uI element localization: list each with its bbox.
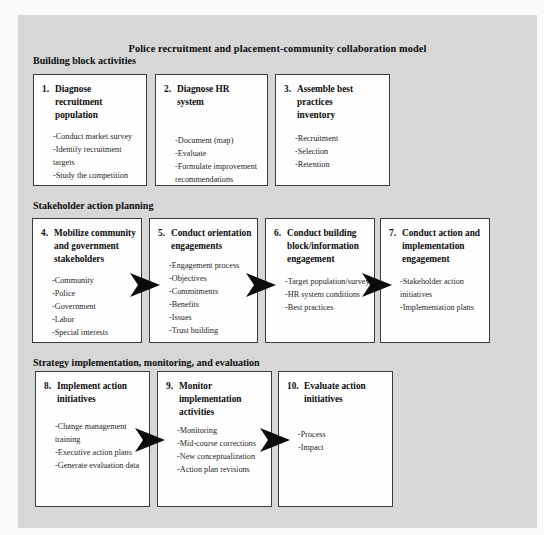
list-item: -Trust building [169,324,253,337]
list-item: -Commitments [169,285,253,298]
list-item: -Stakeholder action initiatives [400,275,485,301]
box-number: 5. [158,227,165,240]
box-number: 8. [44,380,51,393]
process-box-8: 8.Implement action initiatives -Change m… [35,371,150,507]
list-item: -Generate evaluation data [55,459,145,472]
diagram-title: Police recruitment and placement-communi… [18,43,537,54]
box-number: 1. [42,83,49,96]
box-number: 6. [274,227,281,240]
box-title: 3.Assemble best practices inventory [284,83,385,122]
list-item: -Special interests [52,326,137,339]
box-title: 1.Diagnose recruitment population [42,83,142,122]
flow-arrow-icon [246,273,276,297]
list-item: -Impact [298,441,388,454]
process-box-5: 5.Conduct orientation engagements -Engag… [149,218,258,343]
box-items: -Recruitment-Selection-Retention [295,132,385,171]
list-item: -Police [52,287,137,300]
process-box-10: 10.Evaluate action initiatives -Process-… [278,371,393,507]
list-item: -Monitoring [177,424,267,437]
box-items: -Document (map)-Evaluate-Formulate impro… [175,134,263,186]
box-title-text: Diagnose recruitment population [55,84,102,120]
flow-arrow-icon [130,273,160,297]
list-item: -New conceptualization [177,450,267,463]
box-title-text: Implement action initiatives [57,381,127,404]
box-items: -Conduct market survey-Identify recruitm… [53,130,142,182]
list-item: -Conduct market survey [53,130,142,143]
box-title-text: Assemble best practices inventory [297,84,353,120]
box-items: -Monitoring-Mid-course corrections-New c… [177,424,267,476]
list-item: -Community [52,274,137,287]
box-items: -Community-Police-Government-Labor-Speci… [52,274,137,339]
process-box-3: 3.Assemble best practices inventory -Rec… [275,74,390,186]
list-item: -Selection [295,145,385,158]
flow-arrow-icon [260,428,290,452]
box-title: 7.Conduct action and implementation enga… [389,227,485,266]
box-items: -Stakeholder action initiatives-Implemen… [400,275,485,314]
process-box-7: 7.Conduct action and implementation enga… [380,218,490,343]
box-title-text: Diagnose HR system [177,84,229,107]
list-item: -Document (map) [175,134,263,147]
list-item: -Recruitment [295,132,385,145]
list-item: -Process [298,428,388,441]
section-header-strategy-implementation: Strategy implementation, monitoring, and… [33,357,260,368]
box-title: 8.Implement action initiatives [44,380,145,406]
box-items: -Engagement process-Objectives-Commitmen… [169,259,253,337]
box-title: 2.Diagnose HR system [164,83,263,109]
process-box-9: 9.Monitor implementation activities -Mon… [157,371,272,507]
process-box-1: 1.Diagnose recruitment population -Condu… [33,74,147,186]
flow-arrow-icon [362,273,392,297]
list-item: -Best practices [285,301,370,314]
list-item: -Engagement process [169,259,253,272]
box-number: 3. [284,83,291,96]
list-item: -Action plan revisions [177,463,267,476]
box-title-text: Mobilize community and government stakeh… [54,228,136,264]
list-item: -HR system conditions [285,288,370,301]
list-item: -Government [52,300,137,313]
list-item: -Benefits [169,298,253,311]
flow-arrow-icon [135,428,165,452]
list-item: -Objectives [169,272,253,285]
process-box-6: 6.Conduct building block/information eng… [265,218,375,343]
box-title-text: Conduct building block/information engag… [287,228,359,264]
box-number: 2. [164,83,171,96]
list-item: -Study the competition [53,169,142,182]
list-item: -Target population/survey [285,275,370,288]
box-title: 10.Evaluate action initiatives [287,380,388,406]
list-item: -Identify recruitment targets [53,143,142,169]
section-header-building-blocks: Building block activities [33,55,136,66]
box-items: -Change management training-Executive ac… [55,420,145,472]
process-box-2: 2.Diagnose HR system -Document (map)-Eva… [155,74,268,186]
list-item: -Change management training [55,420,145,446]
box-title-text: Conduct action and implementation engage… [402,228,480,264]
box-title: 4.Mobilize community and government stak… [41,227,137,266]
list-item: -Labor [52,313,137,326]
box-title: 5.Conduct orientation engagements [158,227,253,253]
list-item: -Issues [169,311,253,324]
box-title: 9.Monitor implementation activities [166,380,267,419]
box-number: 7. [389,227,396,240]
list-item: -Retention [295,158,385,171]
list-item: -Formulate improvement recommendations [175,160,263,186]
process-box-4: 4.Mobilize community and government stak… [32,218,142,343]
list-item: -Executive action plans [55,446,145,459]
box-number: 4. [41,227,48,240]
box-title: 6.Conduct building block/information eng… [274,227,370,266]
section-header-stakeholder-planning: Stakeholder action planning [33,200,153,211]
list-item: -Evaluate [175,147,263,160]
box-items: -Process-Impact [298,428,388,454]
box-number: 10. [287,380,299,393]
box-title-text: Conduct orientation engagements [171,228,251,251]
box-number: 9. [166,380,173,393]
list-item: -Mid-course corrections [177,437,267,450]
list-item: -Implementation plans [400,301,485,314]
box-title-text: Evaluate action initiatives [304,381,366,404]
box-title-text: Monitor implementation activities [179,381,242,417]
diagram-panel: Police recruitment and placement-communi… [18,15,537,528]
box-items: -Target population/survey-HR system cond… [285,275,370,314]
